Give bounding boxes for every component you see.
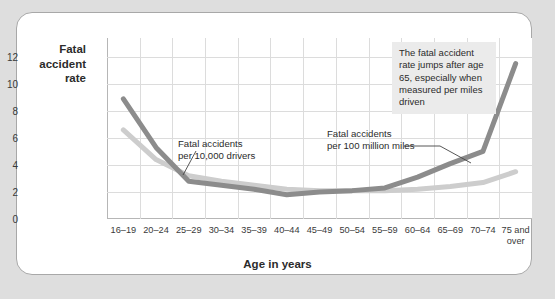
y-axis-tick-label: 6 — [0, 132, 18, 143]
y-axis-tick-label: 0 — [0, 214, 18, 225]
annotation-note: The fatal accident rate jumps after age … — [392, 42, 496, 114]
chart-area: Fatal accident rate 024681012 16–1920–24… — [0, 0, 555, 299]
y-axis-tick-label: 12 — [0, 51, 18, 62]
y-axis-title-line-3: rate — [24, 71, 86, 86]
y-axis-tick-label: 8 — [0, 105, 18, 116]
callout-miles-label: Fatal accidents per 100 million miles — [327, 128, 414, 152]
y-axis-title-line-1: Fatal — [24, 42, 86, 57]
y-axis-title: Fatal accident rate — [24, 42, 86, 86]
y-axis-title-line-2: accident — [24, 57, 86, 72]
x-axis-tick-label: 75 and over — [492, 225, 540, 247]
figure-root: Fatal accident rate 024681012 16–1920–24… — [0, 0, 555, 299]
y-axis-tick-label: 2 — [0, 186, 18, 197]
x-axis-title: Age in years — [0, 258, 555, 270]
y-axis-tick-label: 10 — [0, 78, 18, 89]
y-axis-tick-label: 4 — [0, 159, 18, 170]
callout-drivers-label: Fatal accidents per 10,000 drivers — [178, 138, 255, 162]
